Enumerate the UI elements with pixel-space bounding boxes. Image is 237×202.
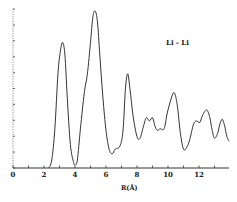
annotation-li-li: Li - Li [166,38,189,47]
x-tick-label: 10 [163,170,173,179]
series-line-li-li [49,11,230,168]
x-tick-label: 12 [194,170,204,179]
x-tick-label: 4 [73,170,78,179]
x-axis-title: R(Å) [121,183,138,192]
x-tick-label: 8 [135,170,140,179]
chart: 024681012 R(Å) Li - Li [0,0,237,202]
x-tick-label: 2 [42,170,47,179]
x-tick-label: 6 [104,170,109,179]
x-axis: 024681012 [11,166,229,180]
x-tick-label: 0 [11,170,16,179]
y-axis [13,9,15,168]
